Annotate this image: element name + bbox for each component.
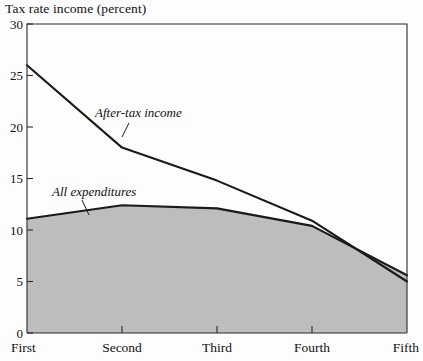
- x-tick-label-fourth: Fourth: [294, 340, 330, 355]
- y-tick-label-30: 30: [10, 17, 23, 32]
- leader-line-after-tax-income: [122, 123, 129, 137]
- series-label-all-expenditures: All expenditures: [51, 184, 136, 199]
- y-tick-label-5: 5: [17, 274, 24, 289]
- y-tick-label-20: 20: [10, 120, 23, 135]
- x-tick-label-fifth: Fifth: [393, 340, 420, 355]
- x-axis-tick-labels: FirstSecondThirdFourthFifth: [11, 340, 419, 355]
- y-tick-label-15: 15: [10, 171, 23, 186]
- chart-container: Tax rate income (percent) 051015202530 F…: [0, 0, 423, 361]
- x-tick-label-first: First: [11, 340, 36, 355]
- chart-plot-area: 051015202530 FirstSecondThirdFourthFifth…: [0, 0, 423, 361]
- series-label-after-tax-income: After-tax income: [94, 105, 182, 120]
- y-axis-tick-labels: 051015202530: [10, 17, 23, 341]
- area-all-expenditures: [27, 205, 407, 333]
- x-tick-label-second: Second: [102, 340, 142, 355]
- x-tick-label-third: Third: [202, 340, 232, 355]
- y-tick-label-0: 0: [17, 326, 24, 341]
- y-tick-label-10: 10: [10, 223, 23, 238]
- y-tick-label-25: 25: [10, 68, 23, 83]
